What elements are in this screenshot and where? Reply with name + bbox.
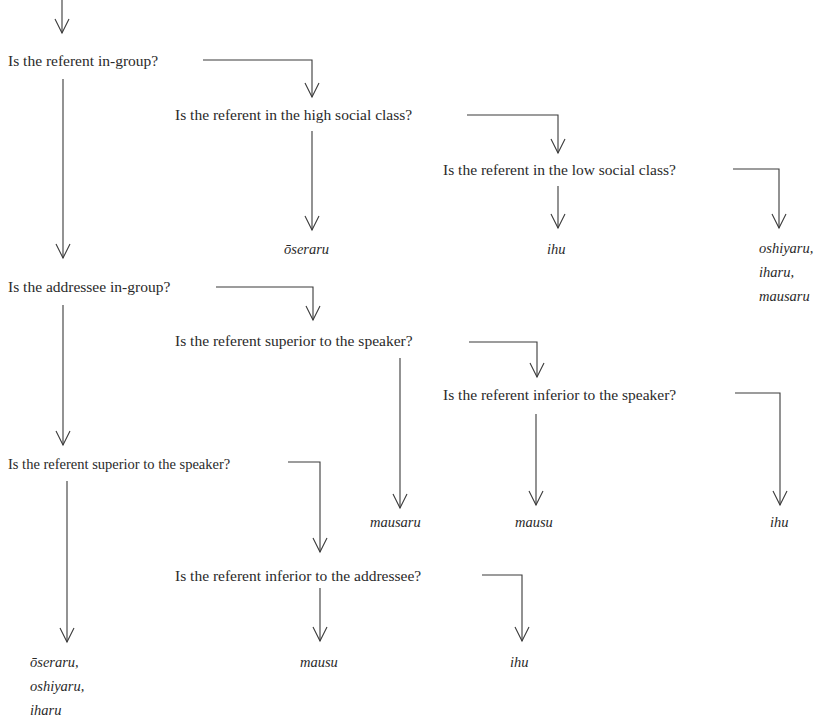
q2-no-connector — [467, 115, 565, 153]
terminal-ihu: ihu — [547, 237, 566, 261]
q3-yes-connector — [551, 186, 565, 228]
terminal-oshiyaru-iharu-mausaru: oshiyaru, iharu, mausaru — [759, 236, 813, 308]
terminal-line: mausaru — [759, 284, 813, 308]
terminal-line: mausu — [300, 650, 338, 674]
terminal-line: oshiyaru, — [759, 236, 813, 260]
q8-no-connector — [482, 575, 529, 641]
question-referent-low-class: Is the referent in the low social class? — [443, 161, 676, 179]
terminal-line: ihu — [547, 237, 566, 261]
terminal-line: mausu — [515, 510, 553, 534]
question-referent-in-group: Is the referent in-group? — [8, 52, 158, 70]
terminal-oseraru-oshiyaru-iharu: ōseraru, oshiyaru, iharu — [30, 650, 84, 722]
question-addressee-in-group: Is the addressee in-group? — [8, 278, 170, 296]
terminal-line: mausaru — [370, 510, 421, 534]
terminal-oseraru: ōseraru — [284, 237, 329, 261]
terminal-line: ihu — [770, 510, 789, 534]
q2-yes-connector — [305, 131, 319, 230]
start-arrow-icon — [55, 0, 69, 33]
q8-yes-connector — [313, 588, 327, 641]
q4-yes-connector — [216, 287, 320, 320]
terminal-line: ōseraru, — [30, 650, 84, 674]
terminal-line: iharu, — [759, 260, 813, 284]
q7-no-connector — [60, 481, 74, 642]
terminal-line: oshiyaru, — [30, 674, 84, 698]
terminal-ihu-3: ihu — [510, 650, 529, 674]
terminal-line: ōseraru — [284, 237, 329, 261]
decision-tree-diagram: Is the referent in-group? Is the referen… — [0, 0, 837, 727]
question-referent-inferior-addressee: Is the referent inferior to the addresse… — [175, 567, 421, 585]
q1-no-connector — [56, 79, 70, 258]
question-referent-inferior-speaker: Is the referent inferior to the speaker? — [443, 386, 676, 404]
q5-no-connector — [469, 342, 544, 377]
terminal-line: iharu — [30, 698, 84, 722]
connector-lines — [0, 0, 837, 727]
q4-no-connector — [56, 305, 70, 445]
question-referent-superior-speaker: Is the referent superior to the speaker? — [175, 332, 413, 350]
q6-yes-connector — [529, 414, 543, 505]
q7-yes-connector — [288, 462, 327, 552]
q3-no-connector — [733, 169, 786, 228]
question-referent-high-class: Is the referent in the high social class… — [175, 106, 412, 124]
q5-yes-connector — [393, 358, 407, 508]
terminal-mausu: mausu — [515, 510, 553, 534]
q1-yes-connector — [203, 60, 319, 97]
terminal-ihu-2: ihu — [770, 510, 789, 534]
terminal-line: ihu — [510, 650, 529, 674]
terminal-mausu-2: mausu — [300, 650, 338, 674]
question-referent-superior-speaker-2: Is the referent superior to the speaker? — [8, 455, 230, 473]
q6-no-connector — [735, 393, 787, 505]
terminal-mausaru: mausaru — [370, 510, 421, 534]
